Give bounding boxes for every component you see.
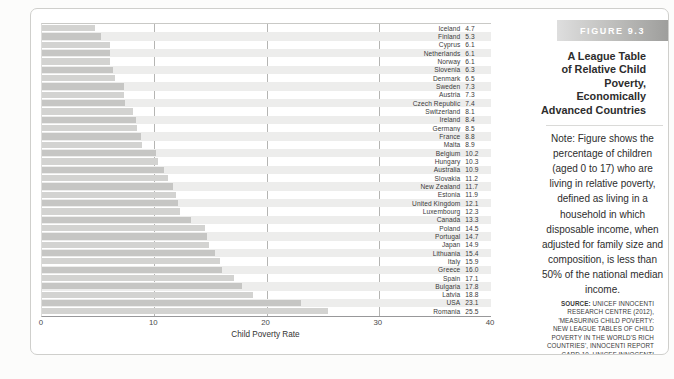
country-label: Portugal <box>42 233 460 240</box>
x-axis-label: Child Poverty Rate <box>41 330 490 339</box>
bar-row: Germany8.5 <box>42 124 491 132</box>
bar-label-group: Sweden7.3 <box>42 82 491 90</box>
bar-label-group: Belgium10.2 <box>42 149 491 157</box>
bar-label-group: Canada13.3 <box>42 216 491 224</box>
figure-title-line: A League Table <box>539 50 646 63</box>
country-label: Czech Republic <box>42 100 460 107</box>
value-label: 10.9 <box>465 166 491 173</box>
bar-row: Lithuania15.4 <box>42 249 491 257</box>
value-label: 11.9 <box>465 191 491 198</box>
x-tick-label: 20 <box>261 318 270 327</box>
value-label: 7.3 <box>465 91 491 98</box>
figure-title: A League Tableof Relative ChildPoverty, … <box>539 50 668 117</box>
bar-row: Luxembourg12.3 <box>42 207 491 215</box>
country-label: Austria <box>42 91 460 98</box>
bar-label-group: Italy15.9 <box>42 257 491 265</box>
value-label: 25.5 <box>465 308 491 315</box>
bar-row: Romania25.5 <box>42 307 491 315</box>
value-label: 6.5 <box>465 75 491 82</box>
figure-number-label: FIGURE 9.3 <box>580 26 645 36</box>
bar-label-group: Poland14.5 <box>42 224 491 232</box>
source-prefix: SOURCE: <box>561 300 591 307</box>
bar-label-group: Slovakia11.2 <box>42 174 491 182</box>
bar-label-group: Portugal14.7 <box>42 232 491 240</box>
value-label: 8.5 <box>465 125 491 132</box>
value-label: 12.3 <box>465 208 491 215</box>
scanned-page: Iceland4.7Finland5.3Cyprus6.1Netherlands… <box>0 0 674 379</box>
bar-row: United Kingdom12.1 <box>42 199 491 207</box>
country-label: Denmark <box>42 75 460 82</box>
bar-label-group: Iceland4.7 <box>42 24 491 32</box>
value-label: 12.1 <box>465 200 491 207</box>
country-label: Slovakia <box>42 175 460 182</box>
figure-title-line: Advanced Countries <box>539 104 646 117</box>
value-label: 15.9 <box>465 258 491 265</box>
country-label: Malta <box>42 141 460 148</box>
bar-row: Estonia11.9 <box>42 191 491 199</box>
bar-label-group: Japan14.9 <box>42 241 491 249</box>
country-label: Lithuania <box>42 250 460 257</box>
bar-row: Finland5.3 <box>42 32 491 40</box>
value-label: 16.0 <box>465 266 491 273</box>
country-label: Sweden <box>42 83 460 90</box>
x-tick-label: 30 <box>373 318 382 327</box>
country-label: Slovenia <box>42 66 460 73</box>
bar-label-group: Finland5.3 <box>42 32 491 40</box>
bar-label-group: Slovenia6.3 <box>42 66 491 74</box>
bar-label-group: Germany8.5 <box>42 124 491 132</box>
bar-label-group: Greece16.0 <box>42 266 491 274</box>
bar-row: Czech Republic7.4 <box>42 99 491 107</box>
bar-row: Bulgaria17.8 <box>42 282 491 290</box>
bar-rows: Iceland4.7Finland5.3Cyprus6.1Netherlands… <box>42 24 491 316</box>
bar-row: USA23.1 <box>42 299 491 307</box>
bar-label-group: Lithuania15.4 <box>42 249 491 257</box>
bar-row: Sweden7.3 <box>42 82 491 90</box>
chart-plot-area: Iceland4.7Finland5.3Cyprus6.1Netherlands… <box>41 23 491 317</box>
country-label: Ireland <box>42 116 460 123</box>
bar-row: Cyprus6.1 <box>42 41 491 49</box>
value-label: 14.7 <box>465 233 491 240</box>
value-label: 6.3 <box>465 66 491 73</box>
panel-divider <box>546 125 663 126</box>
country-label: Bulgaria <box>42 283 460 290</box>
country-label: Belgium <box>42 150 460 157</box>
value-label: 15.4 <box>465 250 491 257</box>
bar-label-group: United Kingdom12.1 <box>42 199 491 207</box>
value-label: 11.7 <box>465 183 491 190</box>
value-label: 17.8 <box>465 283 491 290</box>
value-label: 8.1 <box>465 108 491 115</box>
bar-label-group: Hungary10.3 <box>42 157 491 165</box>
bar-row: Latvia18.8 <box>42 291 491 299</box>
bar-label-group: France8.8 <box>42 132 491 140</box>
figure-card: Iceland4.7Finland5.3Cyprus6.1Netherlands… <box>30 8 669 355</box>
bar-row: Slovenia6.3 <box>42 66 491 74</box>
value-label: 10.3 <box>465 158 491 165</box>
source-text: UNICEF INNOCENTI RESEARCH CENTRE (2012),… <box>547 300 654 355</box>
bar-row: Belgium10.2 <box>42 149 491 157</box>
country-label: Finland <box>42 33 460 40</box>
country-label: France <box>42 133 460 140</box>
country-label: Canada <box>42 216 460 223</box>
value-label: 8.4 <box>465 116 491 123</box>
country-label: Greece <box>42 266 460 273</box>
country-label: Cyprus <box>42 41 460 48</box>
country-label: Norway <box>42 58 460 65</box>
value-label: 13.3 <box>465 216 491 223</box>
bar-row: Netherlands6.1 <box>42 49 491 57</box>
figure-title-line: of Relative Child <box>539 63 646 76</box>
country-label: Spain <box>42 275 460 282</box>
bar-row: Japan14.9 <box>42 241 491 249</box>
value-label: 14.9 <box>465 241 491 248</box>
country-label: Poland <box>42 225 460 232</box>
bar-label-group: Netherlands6.1 <box>42 49 491 57</box>
bar-label-group: Switzerland8.1 <box>42 107 491 115</box>
country-label: Italy <box>42 258 460 265</box>
country-label: New Zealand <box>42 183 460 190</box>
bar-label-group: Bulgaria17.8 <box>42 282 491 290</box>
bar-row: Greece16.0 <box>42 266 491 274</box>
bar-label-group: Denmark6.5 <box>42 74 491 82</box>
bar-row: Slovakia11.2 <box>42 174 491 182</box>
x-tick-label: 10 <box>149 318 158 327</box>
bar-label-group: Estonia11.9 <box>42 191 491 199</box>
x-axis-ticks: 010203040 <box>41 318 490 328</box>
